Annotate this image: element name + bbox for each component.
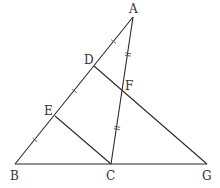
label-point-E: E: [44, 104, 53, 118]
label-point-A: A: [128, 2, 138, 16]
label-point-F: F: [125, 79, 133, 93]
segment-DG: [94, 66, 207, 164]
segments: [15, 17, 207, 164]
geometry-figure: ABCGDEF: [0, 0, 220, 188]
label-point-C: C: [106, 169, 115, 183]
point-labels: ABCGDEF: [10, 2, 212, 183]
tick-mark-AF: [125, 55, 131, 56]
tick-mark-FC: [114, 126, 120, 127]
label-point-G: G: [202, 169, 212, 183]
label-point-B: B: [10, 169, 19, 183]
segment-EC: [55, 116, 111, 164]
tick-marks: [33, 40, 131, 142]
label-point-D: D: [84, 53, 94, 67]
tick-mark-AF: [125, 53, 131, 54]
tick-mark-FC: [114, 129, 120, 130]
